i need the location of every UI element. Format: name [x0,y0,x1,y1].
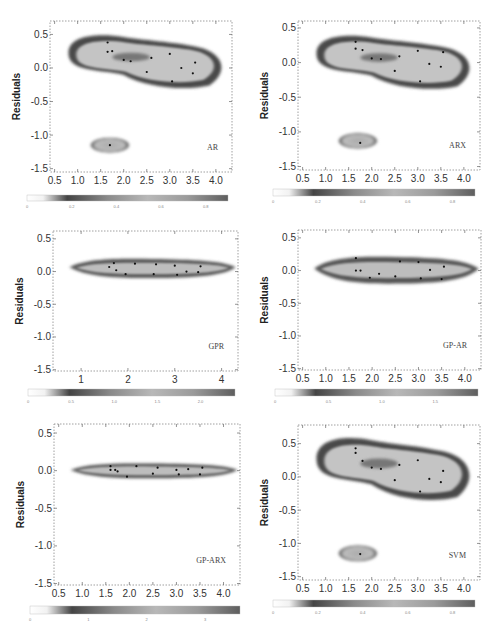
y-tick-label: -0.5 [279,505,297,516]
data-point [419,490,421,492]
x-tick-label: 3.5 [434,583,448,594]
data-point [440,481,442,483]
colorbar-tick-label: 0.6 [405,610,411,615]
colorbar-tick-label: 0.4 [360,610,366,615]
y-tick-label: 0.0 [282,471,296,482]
x-tick-label: 3.0 [411,583,425,594]
model-label: SVM [449,551,466,560]
colorbar-tick-label: 0.8 [450,610,456,615]
x-tick-label: 1.5 [342,583,356,594]
x-tick-label: 1.0 [319,583,333,594]
y-axis-label: Residuals [259,478,270,526]
panel-svm: 0.51.01.52.02.53.03.54.00.50.0-0.5-1.0-1… [0,0,493,631]
data-point [398,464,400,466]
colorbar [273,600,475,607]
x-tick-label: 4.0 [457,583,471,594]
density-map [316,438,469,562]
data-point [380,468,382,470]
data-point [417,459,419,461]
data-point [359,553,361,555]
y-tick-label: 0.5 [282,438,296,449]
data-point [394,479,396,481]
y-tick-label: -1.0 [279,538,297,549]
data-point [354,447,356,449]
data-point [361,460,363,462]
x-tick-label: 0.5 [296,583,310,594]
data-point [428,478,430,480]
data-point [354,452,356,454]
data-point [371,466,373,468]
chart-svg: 0.51.01.52.02.53.03.54.00.50.0-0.5-1.0-1… [0,0,493,631]
data-point [442,470,444,472]
x-tick-label: 2.0 [365,583,379,594]
outlier-density-blob [337,545,378,562]
colorbar-tick-label: 0.2 [315,610,321,615]
y-tick-label: -1.5 [279,571,297,582]
colorbar-tick-label: 0 [272,610,275,615]
x-tick-label: 2.5 [388,583,402,594]
